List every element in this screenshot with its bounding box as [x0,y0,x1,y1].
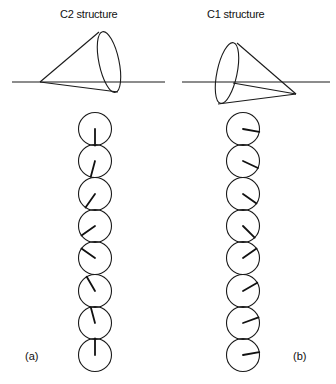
cone-base-ellipse [93,30,125,95]
orientation-segment [81,249,95,258]
subunit-circle [79,339,112,372]
subunit-circle [227,307,260,340]
subunit-circle [227,178,260,211]
diagram-canvas [0,0,336,384]
orientation-segment [86,194,95,208]
subunit-circle [227,339,260,372]
subunit-circle [79,113,112,146]
subunit-column-b [227,113,260,372]
orientation-segment [91,307,95,323]
cone-a [12,30,165,95]
orientation-segment [243,283,257,291]
subunit-circle [79,210,112,243]
subunit-column-a [79,113,112,372]
orientation-segment [87,277,95,291]
subunit-circle [79,178,112,211]
cone-base-ellipse [211,41,243,106]
subunit-circle [227,275,260,308]
panel-a-c2-structure [12,30,165,372]
orientation-segment [243,317,259,323]
cone-edge-top [237,43,296,94]
subunit-circle [79,145,112,178]
subunit-circle [227,242,260,275]
orientation-segment [243,161,258,168]
subunit-circle [227,145,260,178]
orientation-segment [243,249,257,258]
orientation-segment [91,161,95,177]
subunit-circle [79,275,112,308]
orientation-segment [243,129,259,132]
subunit-circle [227,113,260,146]
cone-inner-edge [233,83,296,94]
panel-b-c1-structure [182,41,330,372]
orientation-segment [243,352,259,355]
subunit-circle [79,242,112,275]
cone-b [182,41,330,106]
cone-edge-top [40,32,99,82]
subunit-circle [79,307,112,340]
orientation-segment [81,226,95,235]
orientation-segment [243,194,257,203]
subunit-circle [227,210,260,243]
orientation-segment [243,226,255,238]
